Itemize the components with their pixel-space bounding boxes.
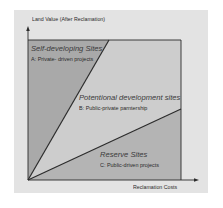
y-axis-arrow-icon (26, 26, 30, 31)
y-axis-label: Land Value (After Reclamation) (32, 16, 105, 22)
region-b-subtitle: B: Public-private parntership (79, 105, 147, 111)
region-c-title: Reserve Sites (100, 151, 147, 159)
region-a-title: Self-developing Sites (31, 45, 102, 53)
region-a-subtitle: A: Private- driven projects (31, 56, 93, 62)
x-axis-label: Reclamation Costs (133, 184, 177, 190)
region-c-subtitle: C: Public-driven projects (100, 162, 159, 168)
x-axis-arrow-icon (194, 178, 199, 182)
region-b-title: Potentional development sites (79, 94, 180, 102)
